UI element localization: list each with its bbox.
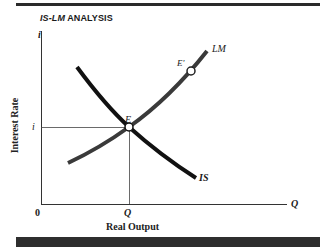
is-curve-label: IS: [199, 172, 208, 183]
bottom-rule: [16, 237, 320, 247]
is-lm-diagram: [0, 0, 320, 247]
equilibrium-i-label: i: [32, 121, 35, 132]
lm-curve: [68, 51, 207, 163]
y-axis-label: Interest Rate: [9, 91, 20, 161]
x-axis-label: Real Output: [106, 221, 159, 232]
point-e-prime: [187, 67, 195, 75]
x-axis-symbol: Q: [291, 198, 298, 209]
point-e-prime-label: E': [177, 58, 184, 68]
y-axis-symbol: i: [38, 29, 41, 40]
point-e-label: E: [125, 114, 131, 125]
origin-label: 0: [35, 207, 40, 218]
equilibrium-q-label: Q: [124, 207, 131, 218]
lm-curve-label: LM: [212, 43, 226, 54]
